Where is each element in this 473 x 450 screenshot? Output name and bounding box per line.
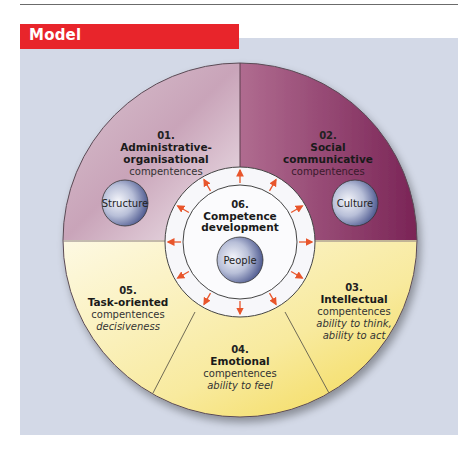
svg-text:Intellectual: Intellectual (320, 293, 387, 305)
svg-text:Administrative-: Administrative- (120, 141, 212, 153)
node-people: People (217, 237, 263, 283)
svg-text:communicative: communicative (283, 153, 373, 165)
node-people-label: People (223, 255, 256, 266)
svg-text:ability to think,: ability to think, (316, 318, 391, 329)
svg-text:organisational: organisational (123, 153, 208, 165)
node-structure-label: Structure (102, 198, 149, 209)
node-structure: Structure (102, 180, 149, 226)
svg-text:development: development (201, 221, 279, 233)
svg-text:compentences: compentences (291, 166, 364, 177)
svg-text:02.: 02. (319, 130, 337, 141)
competence-model-diagram: Structure Culture People 06. Competence … (0, 0, 473, 450)
svg-text:04.: 04. (231, 344, 249, 355)
svg-text:Task-oriented: Task-oriented (88, 296, 169, 308)
node-culture-label: Culture (337, 198, 373, 209)
svg-text:compentences: compentences (129, 166, 202, 177)
svg-text:compentences: compentences (203, 368, 276, 379)
svg-text:06.: 06. (231, 199, 249, 210)
svg-text:compentences: compentences (317, 306, 390, 317)
svg-text:Social: Social (310, 141, 345, 153)
svg-text:compentences: compentences (91, 309, 164, 320)
svg-text:ability to act: ability to act (323, 330, 387, 341)
svg-text:03.: 03. (345, 282, 363, 293)
node-culture: Culture (332, 180, 378, 226)
svg-text:01.: 01. (157, 130, 175, 141)
svg-text:05.: 05. (119, 285, 137, 296)
svg-text:Emotional: Emotional (210, 355, 269, 367)
svg-text:decisiveness: decisiveness (96, 321, 160, 332)
svg-text:ability to feel: ability to feel (207, 380, 273, 391)
